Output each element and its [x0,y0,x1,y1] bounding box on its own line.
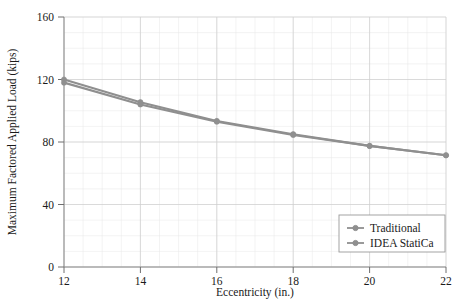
x-tick-label: 14 [135,275,147,287]
x-tick-label: 22 [440,275,452,287]
y-axis-title: Maximum Factored Applied Load (kips) [6,49,19,236]
legend-label[interactable]: IDEA StatiCa [370,237,434,249]
y-tick-label: 40 [43,199,55,211]
line-chart: 04080120160 121416182022 Eccentricity (i… [0,0,463,306]
data-point [291,132,296,137]
data-point [61,80,66,85]
y-axis-ticks: 04080120160 [37,11,64,273]
legend-label[interactable]: Traditional [370,222,421,234]
chart-container: 04080120160 121416182022 Eccentricity (i… [0,0,463,306]
y-tick-label: 160 [37,11,55,23]
y-tick-label: 0 [48,261,54,273]
data-point [214,119,219,124]
x-axis-ticks: 121416182022 [58,267,452,287]
y-tick-label: 120 [37,74,55,86]
data-point [367,143,372,148]
data-point [138,102,143,107]
legend-marker-icon [353,225,358,230]
x-tick-label: 12 [58,275,70,287]
y-tick-label: 80 [43,136,55,148]
data-point [443,153,448,158]
x-tick-label: 20 [364,275,376,287]
chart-legend[interactable]: TraditionalIDEA StatiCa [339,215,445,252]
x-axis-title: Eccentricity (in.) [216,286,294,299]
legend-marker-icon [353,240,358,245]
